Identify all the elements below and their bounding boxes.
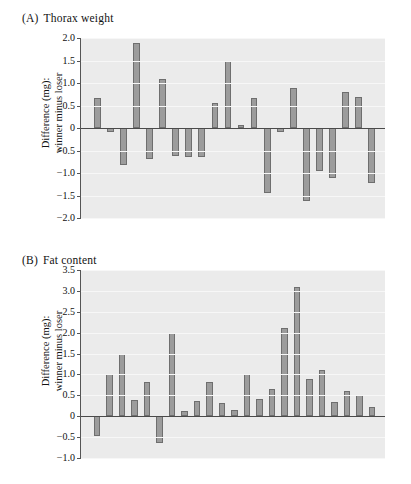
panel-a-plot-area: 2.01.51.00.50−0.5−1.0−1.5−2.0: [80, 38, 385, 218]
panel-b-ylabel-line1: Difference (mg):: [39, 281, 52, 421]
y-axis-tick: [77, 196, 81, 197]
bar: [290, 88, 297, 128]
bar: [269, 389, 275, 416]
gridline: [81, 270, 385, 271]
y-axis-tick: [77, 106, 81, 107]
bar: [294, 287, 300, 417]
bar: [281, 328, 287, 416]
y-axis-tick: [77, 151, 81, 152]
y-axis-tick: [77, 312, 81, 313]
bar: [144, 382, 150, 416]
gridline: [81, 196, 385, 197]
bar: [131, 400, 137, 417]
panel-fat-content: (B)Fat content Difference (mg): winner m…: [0, 242, 411, 484]
y-axis-tick: [77, 83, 81, 84]
y-axis-tick-label: −1.0: [57, 168, 75, 178]
bar: [356, 395, 362, 416]
y-axis-tick: [77, 173, 81, 174]
gridline: [81, 437, 385, 438]
y-axis-tick-label: −1.0: [57, 453, 75, 463]
y-axis-tick-label: 1.5: [63, 349, 76, 359]
bar: [369, 407, 375, 416]
panel-b-plot-area: 3.53.02.52.01.51.00.50−0.5−1.0: [80, 270, 385, 458]
bar: [206, 382, 212, 416]
bar: [251, 98, 258, 128]
bar: [368, 128, 375, 183]
gridline: [81, 218, 385, 219]
bar: [185, 128, 192, 157]
gridline: [81, 61, 385, 62]
y-axis-tick-label: −2.0: [57, 213, 75, 223]
panel-b-bars: [81, 270, 385, 458]
bar: [316, 128, 323, 171]
panel-b-y-axis-label: Difference (mg): winner minus loser: [39, 281, 65, 421]
bar: [355, 97, 362, 128]
bar: [120, 128, 127, 165]
bar: [342, 92, 349, 128]
gridline: [81, 106, 385, 107]
gridline: [81, 458, 385, 459]
gridline: [81, 83, 385, 84]
y-axis-tick-label: −0.5: [57, 432, 75, 442]
bar: [94, 416, 100, 436]
y-axis-tick: [77, 270, 81, 271]
bar: [256, 399, 262, 416]
gridline: [81, 374, 385, 375]
gridline: [81, 291, 385, 292]
panel-thorax-weight: (A)Thorax weight Difference (mg): winner…: [0, 0, 411, 242]
bar: [306, 379, 312, 417]
y-axis-tick-label: 0: [70, 123, 75, 133]
bar: [156, 416, 162, 443]
y-axis-tick: [77, 291, 81, 292]
bar: [225, 61, 232, 128]
bar: [331, 402, 337, 416]
y-axis-tick-label: 1.0: [63, 78, 76, 88]
bar: [212, 103, 219, 128]
bar: [159, 79, 166, 129]
y-axis-tick-label: 0: [70, 411, 75, 421]
y-axis-tick-label: 0.5: [63, 390, 76, 400]
gridline: [81, 38, 385, 39]
gridline: [81, 333, 385, 334]
y-axis-tick: [77, 395, 81, 396]
bar: [119, 354, 125, 416]
y-axis-tick: [77, 354, 81, 355]
zero-axis-line: [81, 128, 385, 129]
y-axis-tick: [77, 38, 81, 39]
y-axis-tick-label: 0.5: [63, 101, 76, 111]
y-axis-tick: [77, 437, 81, 438]
bar: [133, 43, 140, 129]
y-axis-tick: [77, 218, 81, 219]
gridline: [81, 173, 385, 174]
panel-a-y-axis-label: Difference (mg): winner minus loser: [39, 43, 65, 183]
gridline: [81, 354, 385, 355]
bar: [329, 128, 336, 178]
bar: [172, 128, 179, 156]
y-axis-tick-label: −1.5: [57, 191, 75, 201]
bar: [303, 128, 310, 201]
bar: [219, 403, 225, 416]
y-axis-tick-label: −0.5: [57, 146, 75, 156]
bar: [94, 98, 101, 128]
y-axis-tick-label: 3.5: [63, 265, 76, 275]
panel-a-ylabel-line1: Difference (mg):: [39, 43, 52, 183]
y-axis-tick-label: 2.5: [63, 307, 76, 317]
bar: [264, 128, 271, 193]
y-axis-tick-label: 2.0: [63, 328, 76, 338]
panel-a-plot-wrap: Difference (mg): winner minus loser 2.01…: [0, 0, 411, 242]
gridline: [81, 151, 385, 152]
y-axis-tick: [77, 374, 81, 375]
y-axis-tick-label: 2.0: [63, 33, 76, 43]
y-axis-tick: [77, 458, 81, 459]
y-axis-tick-label: 3.0: [63, 286, 76, 296]
bar: [146, 128, 153, 159]
bar: [194, 401, 200, 416]
y-axis-tick: [77, 333, 81, 334]
y-axis-tick: [77, 61, 81, 62]
bar: [319, 370, 325, 416]
zero-axis-line: [81, 416, 385, 417]
y-axis-tick-label: 1.5: [63, 56, 76, 66]
y-axis-tick-label: 1.0: [63, 369, 76, 379]
gridline: [81, 312, 385, 313]
bar: [198, 128, 205, 157]
